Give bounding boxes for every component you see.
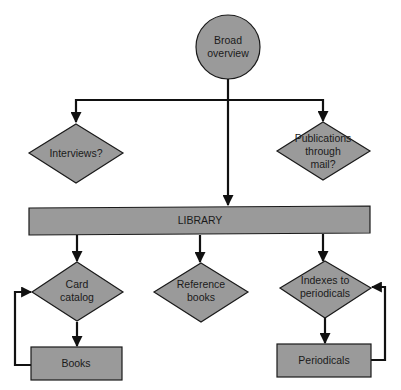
node-label: LIBRARY: [178, 214, 223, 226]
node-label: Publications: [295, 132, 352, 144]
node-label: periodicals: [300, 287, 350, 299]
node-interviews: Interviews?: [29, 124, 123, 183]
edge-start-interviews: [76, 100, 228, 122]
node-label: mail?: [310, 158, 335, 170]
node-label: overview: [207, 47, 249, 59]
edge-start-publications: [228, 100, 323, 121]
node-label: Reference: [177, 278, 226, 290]
edge-books-card-catalog: [15, 292, 31, 365]
node-label: Periodicals: [298, 354, 349, 366]
node-label: Broad: [214, 34, 242, 46]
node-label: Card: [66, 278, 89, 290]
node-indexes-to-periodicals: Indexes to periodicals: [280, 261, 371, 318]
node-label: Books: [61, 357, 90, 369]
node-label: books: [187, 291, 215, 303]
node-label: Interviews?: [49, 147, 102, 159]
edge-periodicals-indexes: [371, 287, 385, 360]
node-books: Books: [31, 347, 122, 380]
flowchart-canvas: Broad overview Interviews? Publications …: [0, 0, 401, 390]
node-periodicals: Periodicals: [277, 344, 371, 377]
node-label: through: [305, 145, 341, 157]
node-card-catalog: Card catalog: [32, 262, 123, 321]
node-publications-through-mail: Publications through mail?: [277, 122, 370, 180]
node-broad-overview: Broad overview: [196, 15, 260, 79]
node-library: LIBRARY: [29, 206, 370, 235]
node-reference-books: Reference books: [154, 263, 248, 322]
node-label: Indexes to: [301, 274, 350, 286]
node-label: catalog: [60, 291, 94, 303]
